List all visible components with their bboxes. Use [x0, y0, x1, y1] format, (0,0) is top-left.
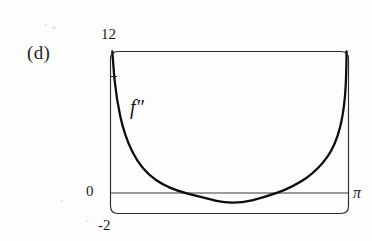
plot-frame	[111, 52, 349, 214]
curve-f-double-prime	[112, 52, 346, 203]
plot-svg	[0, 0, 372, 241]
figure-panel-d: (d) 12 0 -2 π f″	[0, 0, 372, 241]
